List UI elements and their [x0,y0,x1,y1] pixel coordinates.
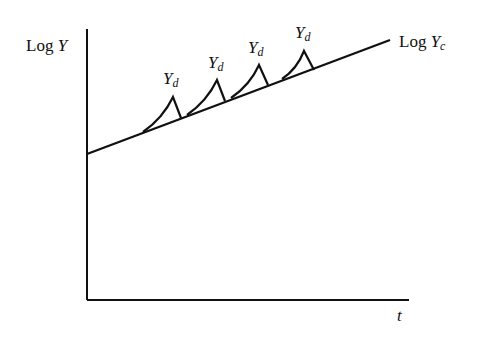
bump-label-3: Yd [248,38,264,59]
bump-label-4: Yd [295,23,311,44]
bump-label-2: Yd [208,53,224,74]
trend-line-log-yc [87,40,390,154]
y-axis-label: Log Y [26,36,69,55]
diagram-svg: Log Y Log Yc Yd Yd Yd Yd t [0,0,487,337]
trend-label: Log Yc [399,32,446,53]
bump-label-1: Yd [163,69,179,90]
x-axis-label: t [397,306,403,325]
diagram-canvas: Log Y Log Yc Yd Yd Yd Yd t [0,0,487,337]
